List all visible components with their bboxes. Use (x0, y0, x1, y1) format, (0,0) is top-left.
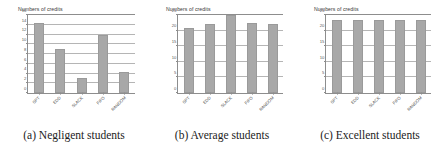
y-tick-label: 0 (24, 87, 26, 91)
bar-series (326, 15, 431, 93)
x-tick-label: RANDOM (407, 96, 423, 112)
bar-slot (220, 15, 241, 93)
bar-slot (368, 15, 389, 93)
bar-spt (332, 20, 342, 93)
bar-fifo (247, 23, 257, 93)
bar-slot (326, 15, 347, 93)
y-tick-label: 8 (24, 48, 26, 52)
chart-panel-excellent: Numbers of credits 0510152025 SPTEDDSLAC… (296, 0, 444, 120)
y-tick-label: 0 (322, 87, 324, 91)
y-tick-label: 5 (174, 71, 176, 75)
bar-random (416, 20, 426, 93)
caption-negligent: (a) Negligent students (0, 120, 148, 151)
plot-area-average: 0510152025 (177, 15, 283, 94)
bar-random (119, 72, 129, 93)
caption-excellent: (c) Excellent students (296, 120, 444, 151)
bar-slack (226, 15, 236, 93)
x-tick-label: EDD (351, 96, 360, 105)
x-label-slot: RANDOM (113, 96, 135, 120)
x-tick-mark (358, 93, 359, 95)
bar-edd (353, 20, 363, 93)
figure-captions-row: (a) Negligent students (b) Average stude… (0, 120, 444, 151)
y-tick-label: 25 (172, 9, 177, 13)
x-tick-label: FIFO (244, 96, 254, 106)
x-tick-label: SLACK (220, 96, 233, 109)
x-axis-labels-negligent: SPTEDDSLACKFIFORANDOM (27, 96, 135, 120)
x-tick-mark (124, 93, 125, 95)
x-label-slot: EDD (49, 96, 71, 120)
bar-slot (178, 15, 199, 93)
x-label-slot: SPT (27, 96, 49, 120)
bar-slot (49, 15, 70, 93)
x-label-slot: SPT (177, 96, 198, 120)
x-label-slot: EDD (346, 96, 367, 120)
caption-average: (b) Average students (148, 120, 296, 151)
x-tick-label: SLACK (368, 96, 381, 109)
x-tick-mark (252, 93, 253, 95)
x-label-slot: RANDOM (410, 96, 431, 120)
x-tick-label: RANDOM (259, 96, 275, 112)
bar-spt (184, 28, 194, 93)
bar-slot (199, 15, 220, 93)
x-tick-mark (421, 93, 422, 95)
bar-fifo (395, 20, 405, 93)
y-tick-label: 15 (320, 40, 325, 44)
x-tick-mark (60, 93, 61, 95)
chart-panel-negligent: Numbers of credits 0246810121416 SPTEDDS… (0, 0, 148, 120)
y-tick-label: 6 (24, 57, 26, 61)
x-tick-mark (337, 93, 338, 95)
x-tick-label: FIFO (96, 96, 106, 106)
x-tick-label: EDD (203, 96, 212, 105)
x-label-slot: SLACK (367, 96, 388, 120)
y-tick-label: 20 (320, 24, 325, 28)
bar-edd (55, 49, 65, 93)
x-tick-mark (189, 93, 190, 95)
y-tick-label: 2 (24, 77, 26, 81)
x-label-slot: EDD (198, 96, 219, 120)
bar-slot (241, 15, 262, 93)
chart-panel-average: Numbers of credits 0510152025 SPTEDDSLAC… (148, 0, 296, 120)
bar-slack (77, 78, 87, 93)
x-tick-label: RANDOM (111, 96, 127, 112)
x-tick-mark (400, 93, 401, 95)
bar-slot (71, 15, 92, 93)
bar-series (178, 15, 283, 93)
bar-spt (34, 23, 44, 93)
plot-area-negligent: 0246810121416 (27, 15, 135, 94)
x-label-slot: SPT (325, 96, 346, 120)
x-tick-mark (82, 93, 83, 95)
bar-slack (374, 20, 384, 93)
x-tick-label: EDD (53, 96, 62, 105)
y-tick-label: 4 (24, 67, 26, 71)
x-label-slot: RANDOM (262, 96, 283, 120)
x-tick-label: FIFO (392, 96, 402, 106)
bar-slot (28, 15, 49, 93)
x-tick-label: SPT (330, 96, 339, 105)
x-tick-label: SLACK (71, 96, 84, 109)
y-tick-label: 15 (172, 40, 177, 44)
plot-area-excellent: 0510152025 (325, 15, 431, 94)
bar-slot (389, 15, 410, 93)
figure-three-bar-charts: Numbers of credits 0246810121416 SPTEDDS… (0, 0, 444, 151)
y-tick-label: 20 (172, 24, 177, 28)
x-tick-mark (273, 93, 274, 95)
x-tick-label: SPT (182, 96, 191, 105)
x-tick-mark (210, 93, 211, 95)
y-tick-label: 0 (174, 87, 176, 91)
y-tick-label: 14 (22, 18, 27, 22)
x-label-slot: SLACK (70, 96, 92, 120)
y-tick-label: 10 (22, 38, 27, 42)
x-axis-labels-average: SPTEDDSLACKFIFORANDOM (177, 96, 283, 120)
x-tick-mark (39, 93, 40, 95)
y-tick-label: 10 (320, 56, 325, 60)
x-tick-mark (103, 93, 104, 95)
bar-slot (262, 15, 283, 93)
chart-panels-row: Numbers of credits 0246810121416 SPTEDDS… (0, 0, 444, 120)
bar-slot (114, 15, 135, 93)
bar-random (268, 24, 278, 93)
x-tick-label: SPT (32, 96, 41, 105)
x-axis-labels-excellent: SPTEDDSLACKFIFORANDOM (325, 96, 431, 120)
bar-fifo (98, 35, 108, 94)
bar-edd (205, 24, 215, 93)
y-tick-label: 25 (320, 9, 325, 13)
